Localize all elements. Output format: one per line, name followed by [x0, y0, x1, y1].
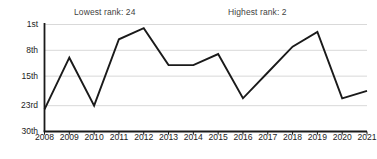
x-axis-tick-label: 2012: [134, 132, 153, 142]
annotation-highest-rank: Highest rank: 2: [228, 7, 287, 17]
y-axis-tick-label: 1st: [27, 20, 38, 29]
x-axis-tick-label: 2021: [357, 132, 376, 142]
y-axis-tick-label: 23rd: [21, 101, 38, 110]
x-axis-tick-labels: 2008200920102011201220132014201520162017…: [0, 132, 374, 148]
x-axis-tick-label: 2014: [184, 132, 203, 142]
x-axis-tick-label: 2011: [110, 132, 128, 142]
x-axis-tick-label: 2008: [35, 132, 54, 142]
x-axis-tick-label: 2009: [60, 132, 79, 142]
y-axis-tick-label: 8th: [26, 46, 38, 55]
x-axis-tick-label: 2015: [209, 132, 228, 142]
x-axis-tick-label: 2013: [159, 132, 178, 142]
x-axis-tick-label: 2016: [233, 132, 252, 142]
annotation-lowest-rank: Lowest rank: 24: [74, 7, 136, 17]
y-axis-tick-label: 15th: [21, 72, 38, 81]
x-axis-tick-label: 2019: [308, 132, 327, 142]
axis-lines: [44, 23, 367, 132]
x-axis-tick-label: 2017: [258, 132, 277, 142]
x-axis-tick-label: 2020: [333, 132, 352, 142]
x-axis-tick-label: 2010: [85, 132, 104, 142]
data-series-line: [45, 28, 368, 109]
x-axis-tick-label: 2018: [283, 132, 302, 142]
